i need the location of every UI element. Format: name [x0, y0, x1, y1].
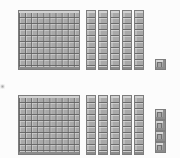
tens-rod	[98, 10, 108, 70]
tens-rod	[86, 95, 96, 155]
cube-side-face-icon	[163, 121, 165, 130]
ones-unit-cube	[155, 59, 166, 70]
cube-front-face-icon	[157, 62, 162, 68]
ones-unit-cube	[155, 120, 166, 131]
tens-rod	[122, 10, 132, 70]
tens-rod	[86, 10, 96, 70]
ones-unit-cube	[155, 131, 166, 142]
base-ten-blocks-canvas	[0, 0, 180, 158]
hundreds-flat	[18, 95, 80, 155]
tens-rod	[98, 95, 108, 155]
tens-rod	[134, 95, 144, 155]
ones-unit-cube	[155, 142, 166, 153]
cube-front-face-icon	[157, 112, 162, 118]
cube-side-face-icon	[163, 60, 165, 69]
tens-rod	[110, 10, 120, 70]
cube-front-face-icon	[157, 134, 162, 140]
cube-front-face-icon	[157, 145, 162, 151]
tens-rod	[122, 95, 132, 155]
cube-side-face-icon	[163, 132, 165, 141]
cube-front-face-icon	[157, 123, 162, 129]
left-edge-smudge	[0, 84, 5, 89]
tens-rod	[110, 95, 120, 155]
tens-rod	[134, 10, 144, 70]
hundreds-flat	[18, 10, 80, 70]
cube-side-face-icon	[163, 110, 165, 119]
cube-side-face-icon	[163, 143, 165, 152]
ones-unit-cube	[155, 109, 166, 120]
